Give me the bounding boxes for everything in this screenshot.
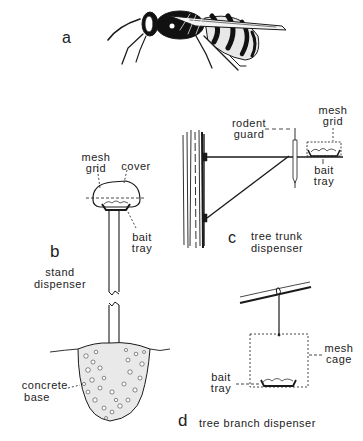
panel-c-title-line2: dispenser <box>251 243 303 254</box>
wasp-illustration <box>108 11 286 70</box>
panel-d-letter: d <box>178 413 187 429</box>
panel-c-letter: c <box>228 230 236 246</box>
stand-dispenser-illustration <box>50 166 170 421</box>
panel-c-title-line1: tree trunk <box>251 231 302 242</box>
panel-b-title-line2: dispenser <box>28 279 92 290</box>
panel-d-title: tree branch dispenser <box>199 418 316 429</box>
trunk-mesh-grid-label-2: grid <box>314 116 352 127</box>
concrete-base-label-1: concrete <box>6 380 68 391</box>
mesh-cage-label-2: cage <box>320 354 358 365</box>
panel-a-letter: a <box>62 30 71 46</box>
branch-bait-tray-label-2: tray <box>206 383 236 394</box>
figure-artwork <box>0 0 363 441</box>
stand-bait-tray-label-2: tray <box>124 243 160 254</box>
stand-mesh-grid-label-2: grid <box>76 163 116 174</box>
rodent-guard-label-2: guard <box>228 129 270 140</box>
tree-branch-dispenser-illustration <box>236 282 322 387</box>
concrete-base-label-2: base <box>12 392 62 403</box>
panel-b-letter: b <box>50 244 59 260</box>
stand-cover-label: cover <box>116 161 156 172</box>
trunk-bait-tray-label-2: tray <box>306 176 342 187</box>
panel-b-title-line1: stand <box>30 267 90 278</box>
